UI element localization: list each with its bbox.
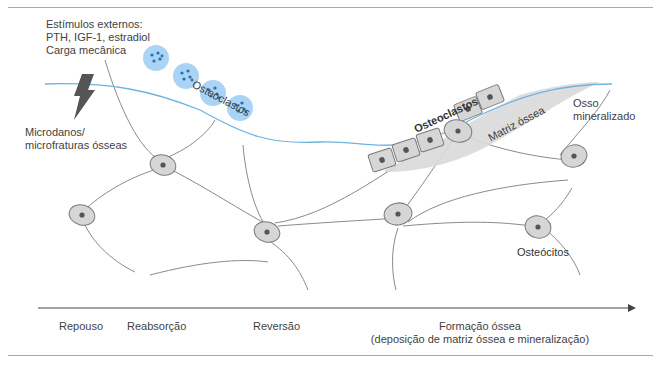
phase-resting: Repouso: [59, 320, 103, 333]
stimuli-label: Estímulos externos: PTH, IGF-1, estradio…: [46, 18, 150, 57]
phase-reversal: Reversão: [253, 320, 300, 333]
osteocyte-icon: [559, 142, 590, 170]
mineralized-bone-label: Osso mineralizado: [573, 97, 635, 123]
osteocytes-group: [67, 117, 590, 245]
osteocytes-label: Osteócitos: [517, 246, 569, 259]
microdamage-label: Microdanos/ microfraturas ósseas: [25, 126, 127, 152]
lightning-icon: [74, 74, 95, 120]
timeline-axis: [38, 304, 636, 312]
osteocyte-icon: [67, 202, 97, 228]
phase-formation: Formação óssea (deposição de matriz ósse…: [325, 320, 635, 346]
osteocyte-icon: [382, 201, 413, 228]
osteocyte-icon: [148, 152, 178, 178]
phase-resorption: Reabsorção: [127, 320, 186, 333]
